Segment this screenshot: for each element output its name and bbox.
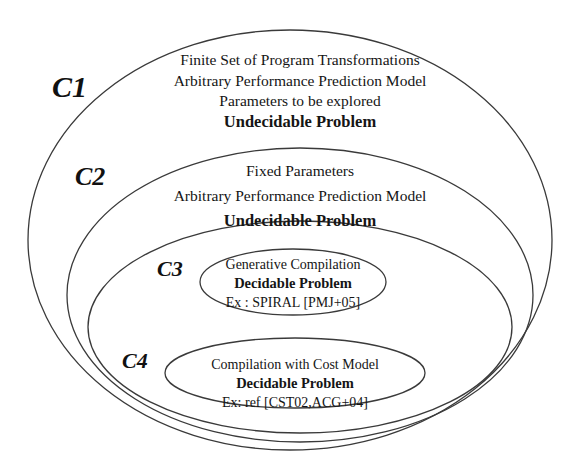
set-label-c3: C3 bbox=[157, 258, 183, 280]
text-block-c3: Generative Compilation Decidable Problem… bbox=[200, 255, 386, 312]
c4-line-3: Ex: ref [CST02,ACG+04] bbox=[165, 393, 425, 412]
c1-line-1: Finite Set of Program Transformations bbox=[140, 50, 460, 71]
diagram-canvas: C1 C2 C3 C4 Finite Set of Program Transf… bbox=[0, 0, 579, 467]
set-label-c2: C2 bbox=[75, 164, 105, 190]
c1-line-3: Parameters to be explored bbox=[140, 91, 460, 112]
c4-line-2: Decidable Problem bbox=[165, 374, 425, 393]
c3-line-2: Decidable Problem bbox=[200, 274, 386, 293]
c1-line-2: Arbitrary Performance Prediction Model bbox=[140, 71, 460, 92]
c3-line-1: Generative Compilation bbox=[200, 255, 386, 274]
c3-line-3: Ex : SPIRAL [PMJ+05] bbox=[200, 293, 386, 312]
c2-line-1: Fixed Parameters bbox=[140, 158, 460, 183]
c1-line-4: Undecidable Problem bbox=[140, 112, 460, 133]
set-label-c1: C1 bbox=[52, 72, 87, 102]
c2-line-3: Undecidable Problem bbox=[140, 208, 460, 233]
text-block-c1: Finite Set of Program Transformations Ar… bbox=[140, 50, 460, 132]
text-block-c2: Fixed Parameters Arbitrary Performance P… bbox=[140, 158, 460, 233]
c2-line-2: Arbitrary Performance Prediction Model bbox=[140, 183, 460, 208]
set-label-c4: C4 bbox=[122, 350, 148, 372]
text-block-c4: Compilation with Cost Model Decidable Pr… bbox=[165, 355, 425, 412]
c4-line-1: Compilation with Cost Model bbox=[165, 355, 425, 374]
